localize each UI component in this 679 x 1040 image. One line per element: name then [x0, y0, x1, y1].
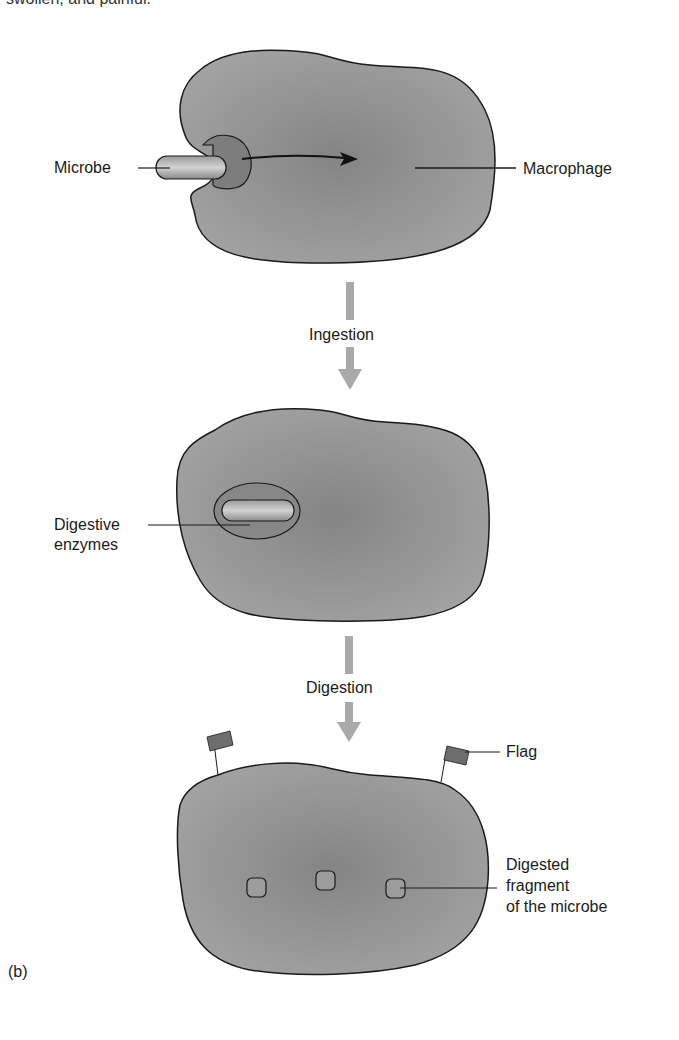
label-flag: Flag	[506, 742, 537, 761]
macrophage-cell-1	[156, 50, 495, 263]
ingestion-arrow-head	[338, 369, 362, 390]
label-fragment-line3: of the microbe	[506, 897, 607, 916]
flag-right	[441, 746, 469, 782]
label-digestive-enzymes-line1: Digestive	[54, 515, 120, 534]
label-digestive-enzymes-line2: enzymes	[54, 535, 118, 554]
panel-label: (b)	[8, 962, 28, 981]
macrophage-cell-2	[177, 409, 489, 621]
flag-left	[207, 731, 233, 775]
label-microbe: Microbe	[54, 158, 111, 177]
label-macrophage: Macrophage	[523, 159, 612, 178]
label-fragment-line1: Digested	[506, 855, 569, 874]
label-digestion: Digestion	[306, 678, 373, 697]
label-fragment-line2: fragment	[506, 876, 569, 895]
ingestion-arrow-stem-bottom	[346, 347, 354, 369]
macrophage-cell-3	[177, 763, 488, 975]
digestion-arrow-stem-top	[345, 636, 353, 674]
ingestion-arrow-stem-top	[346, 282, 354, 320]
digestion-arrow-head	[337, 722, 361, 742]
label-ingestion: Ingestion	[309, 325, 374, 344]
digestion-arrow-stem-bottom	[345, 702, 353, 722]
